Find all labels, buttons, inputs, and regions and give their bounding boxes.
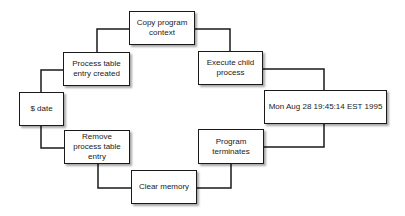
node-label: Program terminates — [202, 137, 260, 157]
node-date: $ date — [19, 92, 64, 126]
node-program-terminates: Program terminates — [198, 129, 264, 164]
edge-copy-context-to-execute-child — [195, 29, 230, 51]
edge-date-to-process-table — [41, 70, 63, 92]
edge-output-to-program-terminates — [264, 124, 324, 147]
node-label: Mon Aug 28 19:45:14 EST 1995 — [269, 102, 383, 112]
node-remove-process-table-entry: Remove process table entry — [64, 130, 130, 164]
edge-process-table-to-copy-context — [97, 29, 129, 52]
node-process-table-entry-created: Process table entry created — [63, 52, 130, 86]
node-execute-child-process: Execute child process — [198, 51, 263, 85]
node-copy-program-context: Copy program context — [129, 11, 195, 45]
edge-clear-memory-to-remove-entry — [98, 164, 131, 188]
node-label: Clear memory — [139, 182, 189, 192]
node-label: Execute child process — [202, 58, 259, 78]
node-label: Remove process table entry — [68, 132, 126, 162]
edge-program-terminates-to-clear-memory — [197, 164, 231, 188]
node-clear-memory: Clear memory — [131, 170, 197, 204]
node-label: Process table entry created — [67, 59, 126, 79]
node-label: Copy program context — [133, 18, 191, 38]
node-label: $ date — [30, 104, 52, 114]
node-date-output: Mon Aug 28 19:45:14 EST 1995 — [264, 90, 387, 124]
edge-execute-child-to-output — [263, 69, 324, 90]
edge-remove-entry-to-date — [41, 125, 64, 148]
